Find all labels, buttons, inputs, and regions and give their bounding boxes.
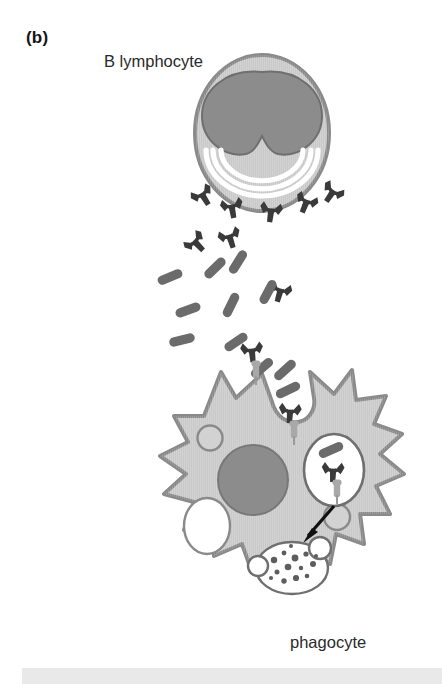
immunology-diagram: [0, 0, 442, 684]
phagocyte-cell: [160, 370, 404, 594]
antibody-icon: [317, 179, 347, 208]
b-lymphocyte-cell: [195, 55, 329, 211]
bacterium-icon: [274, 380, 301, 400]
antibody-icon: [240, 341, 265, 363]
phagosome: [304, 434, 364, 506]
vacuole: [324, 504, 350, 530]
bacteria-group: [156, 249, 298, 383]
bacterium-icon: [156, 268, 184, 286]
vacuole: [198, 426, 223, 451]
bacterium-icon: [202, 256, 227, 281]
bacterium-icon: [168, 332, 195, 347]
figure-container: (b) B lymphocyte phagocyte: [0, 0, 442, 684]
vacuole: [184, 498, 230, 554]
antibody-icon: [181, 228, 211, 258]
bacterium-icon: [258, 278, 278, 305]
bacterium-icon: [227, 249, 249, 276]
bacterium-icon: [272, 358, 297, 382]
phagocyte-nucleus: [218, 445, 288, 515]
phagolysosome-lobe: [248, 556, 268, 576]
antibody-icon: [216, 225, 244, 251]
phagolysosome-lobe: [309, 537, 331, 559]
bacterium-icon: [221, 291, 241, 318]
bottom-divider-bar: [22, 668, 442, 684]
bacterium-icon: [174, 301, 202, 319]
